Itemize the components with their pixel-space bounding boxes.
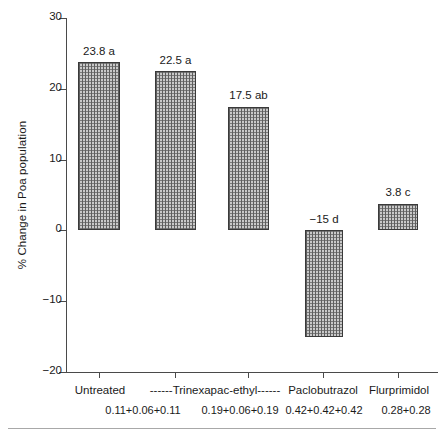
x-rate-paclobutrazol: 0.42+0.42+0.42 (279, 404, 369, 416)
y-tick-label: 30 (49, 10, 62, 22)
bar-untreated (78, 62, 120, 231)
x-label-untreated: Untreated (55, 384, 145, 396)
plot-area: 30 20 10 0 −10 −20 (66, 18, 438, 372)
x-rate-trinexapac-ethyl-low: 0.11+0.06+0.11 (98, 404, 188, 416)
y-tick-label: 0 (56, 222, 62, 234)
bar-flurprimidol (378, 204, 418, 231)
y-axis-title: % Change in Poa population (12, 18, 32, 372)
bar-label-trinexapac-ethyl-low: 22.5 a (138, 54, 213, 66)
y-axis-line (66, 18, 67, 372)
y-tick-label: −10 (42, 293, 62, 305)
bar-label-paclobutrazol: −15 d (287, 213, 361, 225)
x-group-label-trinexapac-ethyl: ------Trinexapac-ethyl------ (135, 384, 295, 396)
bar-label-flurprimidol: 3.8 c (361, 186, 435, 198)
chart-figure: % Change in Poa population 30 20 10 0 −1… (0, 0, 443, 438)
x-label-flurprimidol: Flurprimidol (359, 384, 439, 396)
bar-trinexapac-ethyl-low (155, 71, 196, 230)
x-rate-trinexapac-ethyl-high: 0.19+0.06+0.19 (195, 404, 285, 416)
x-tick-4 (398, 372, 399, 378)
x-tick-1 (175, 372, 176, 378)
y-tick-label: 20 (49, 81, 62, 93)
x-rate-flurprimidol: 0.28+0.28 (371, 404, 441, 416)
y-tick-label: −20 (42, 364, 62, 376)
bar-label-untreated: 23.8 a (62, 45, 136, 57)
bottom-divider (8, 428, 436, 429)
bar-trinexapac-ethyl-high (228, 107, 269, 231)
bar-paclobutrazol (305, 230, 343, 336)
x-tick-3 (323, 372, 324, 378)
y-tick-label: 10 (49, 152, 62, 164)
x-tick-0 (99, 372, 100, 378)
x-tick-2 (248, 372, 249, 378)
x-axis-line (66, 372, 438, 373)
x-label-paclobutrazol: Paclobutrazol (281, 384, 365, 396)
bar-label-trinexapac-ethyl-high: 17.5 ab (209, 89, 288, 101)
